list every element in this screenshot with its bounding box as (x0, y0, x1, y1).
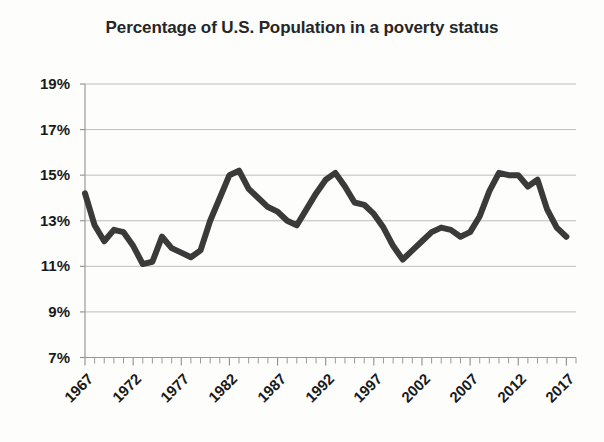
y-axis-tick-label: 19% (8, 76, 70, 91)
poverty-rate-line-chart: Percentage of U.S. Population in a pover… (0, 0, 604, 442)
y-axis-tick-label: 7% (8, 350, 70, 365)
data-series-line (85, 171, 566, 264)
x-axis-ticks-group (80, 84, 576, 366)
y-axis-tick-label: 15% (8, 167, 70, 182)
gridlines-group (85, 84, 576, 358)
y-axis-tick-label: 13% (8, 213, 70, 228)
y-axis-tick-label: 11% (8, 258, 70, 273)
y-axis-tick-label: 9% (8, 304, 70, 319)
y-axis-tick-label: 17% (8, 122, 70, 137)
